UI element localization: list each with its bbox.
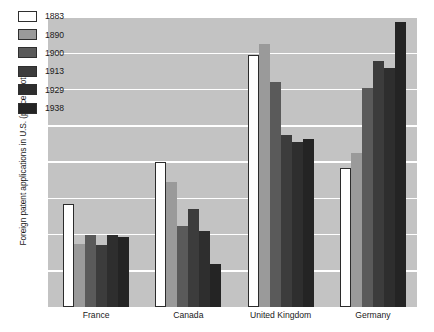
bar [351,153,362,307]
bar [362,88,373,307]
bar [395,22,406,307]
bar-chart: Foreign patent applications in U.S. (per… [0,0,434,332]
legend-item: 1938 [18,99,64,117]
legend-swatch [18,47,37,58]
legend-label: 1890 [45,30,64,40]
bar [74,244,85,307]
x-axis-category-label: Germany [355,310,390,320]
bar [107,235,118,308]
bar [96,245,107,307]
bar-group [63,17,129,307]
legend-label: 1929 [45,85,64,95]
bar [270,82,281,307]
bar-group [340,17,406,307]
bar-group [248,17,314,307]
legend-label: 1938 [45,103,64,113]
bar [259,44,270,307]
bar [373,61,384,308]
legend-label: 1913 [45,66,64,76]
bar [118,237,129,307]
bar [340,168,351,307]
legend-label: 1900 [45,48,64,58]
bar [155,162,166,307]
bar-group [155,17,221,307]
legend-swatch [18,29,37,40]
bar [248,55,259,307]
legend-swatch [18,84,37,95]
bar [281,135,292,307]
legend-swatch [18,11,37,22]
legend: 188318901900191319291938 [18,7,64,117]
legend-swatch [18,66,37,77]
legend-swatch [18,103,37,114]
x-axis-category-label: United Kingdom [250,310,311,320]
bar [166,182,177,307]
bar [177,226,188,307]
x-axis-category-label: France [83,310,110,320]
bar [63,204,74,307]
bar [303,139,314,307]
legend-item: 1929 [18,81,64,99]
bar [384,68,395,307]
legend-item: 1913 [18,62,64,80]
legend-item: 1890 [18,25,64,43]
legend-label: 1883 [45,11,64,21]
bar [188,209,199,307]
bar [292,142,303,307]
legend-item: 1900 [18,44,64,62]
legend-item: 1883 [18,7,64,25]
bar [199,231,210,307]
bar [210,264,221,308]
plot-area [48,17,417,307]
bars-layer [48,17,417,307]
bar [85,235,96,308]
x-axis-category-label: Canada [173,310,203,320]
x-axis-category-labels: FranceCanadaUnited KingdomGermany [48,310,417,330]
